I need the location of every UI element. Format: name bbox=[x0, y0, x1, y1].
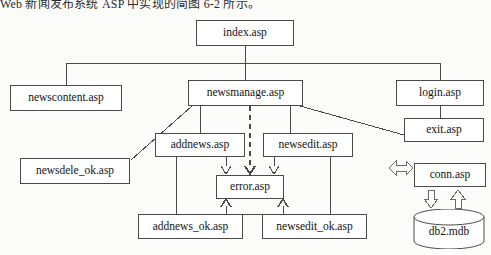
node-label: db2.mdb bbox=[429, 221, 470, 237]
node-addnews-asp[interactable]: addnews.asp bbox=[155, 133, 245, 157]
node-label: newscontent.asp bbox=[28, 92, 104, 104]
diagram-page: Web 新闻发布系统 ASP 中实现的简图 6-2 所示。 bbox=[0, 0, 491, 255]
node-label: addnews_ok.asp bbox=[153, 221, 229, 233]
node-addnews-ok-asp[interactable]: addnews_ok.asp bbox=[138, 214, 243, 239]
node-db2-mdb-cylinder[interactable]: db2.mdb bbox=[412, 209, 486, 249]
arrowhead-up-right bbox=[278, 199, 288, 207]
arrowhead-down-dashed bbox=[245, 166, 255, 174]
node-error-asp[interactable]: error.asp bbox=[216, 175, 284, 199]
node-newsedit-ok-asp[interactable]: newsedit_ok.asp bbox=[262, 214, 367, 239]
edge-newsmanage-to-exit bbox=[300, 106, 404, 135]
node-newsedit-asp[interactable]: newsedit.asp bbox=[263, 133, 353, 157]
arrowhead-down-left bbox=[221, 166, 231, 174]
node-login-asp[interactable]: login.asp bbox=[396, 80, 484, 106]
node-newscontent-asp[interactable]: newscontent.asp bbox=[10, 85, 122, 111]
node-exit-asp[interactable]: exit.asp bbox=[404, 118, 484, 142]
node-label: newsedit.asp bbox=[278, 139, 337, 151]
node-index-asp[interactable]: index.asp bbox=[196, 20, 294, 46]
arrowhead-down-right bbox=[269, 166, 279, 174]
node-label: error.asp bbox=[230, 181, 270, 193]
block-arrow-down-conn-to-db bbox=[424, 190, 438, 208]
node-label: newsmanage.asp bbox=[207, 87, 285, 99]
node-label: newsedit_ok.asp bbox=[276, 221, 352, 233]
node-conn-asp[interactable]: conn.asp bbox=[414, 163, 486, 187]
node-newsmanage-asp[interactable]: newsmanage.asp bbox=[188, 80, 303, 106]
node-label: newsdele_ok.asp bbox=[36, 165, 114, 177]
node-label: index.asp bbox=[223, 27, 267, 39]
node-label: addnews.asp bbox=[171, 139, 229, 151]
node-newsdele-ok-asp[interactable]: newsdele_ok.asp bbox=[20, 158, 130, 184]
node-label: conn.asp bbox=[430, 169, 471, 181]
block-arrow-double-horizontal bbox=[389, 161, 413, 175]
arrowhead-up-left bbox=[221, 199, 231, 207]
node-label: exit.asp bbox=[426, 124, 461, 136]
block-arrow-up-db-to-conn bbox=[451, 190, 465, 208]
node-label: login.asp bbox=[419, 87, 461, 99]
